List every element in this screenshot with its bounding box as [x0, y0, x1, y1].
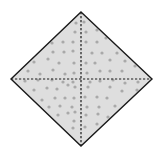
- texture-dot: [123, 59, 126, 62]
- texture-dot: [84, 30, 87, 33]
- texture-dot: [63, 72, 66, 75]
- texture-dot: [84, 61, 87, 64]
- texture-dot: [86, 85, 89, 88]
- texture-dot: [105, 96, 108, 99]
- texture-dot: [71, 40, 74, 43]
- texture-dot: [40, 98, 43, 101]
- texture-dot: [100, 51, 103, 54]
- texture-dot: [95, 95, 98, 98]
- texture-dot: [23, 79, 26, 82]
- texture-dot: [61, 40, 64, 43]
- texture-dot: [74, 21, 77, 24]
- texture-dot: [45, 86, 48, 89]
- texture-dot: [73, 110, 76, 113]
- texture-dot: [55, 87, 58, 90]
- texture-dot: [93, 61, 96, 64]
- texture-dot: [96, 112, 99, 115]
- texture-dot: [73, 30, 76, 33]
- texture-dot: [62, 50, 65, 53]
- texture-dot: [71, 80, 74, 83]
- texture-dot: [115, 51, 118, 54]
- texture-dot: [82, 20, 85, 23]
- texture-dot: [83, 125, 86, 128]
- texture-dot: [108, 69, 111, 72]
- texture-dot: [73, 85, 76, 88]
- texture-dot: [53, 96, 56, 99]
- texture-dot: [85, 105, 88, 108]
- texture-dot: [97, 105, 100, 108]
- texture-dot: [61, 80, 64, 83]
- texture-dot: [46, 57, 49, 60]
- texture-dot: [72, 61, 75, 64]
- texture-dot: [113, 104, 116, 107]
- texture-dot: [83, 95, 86, 98]
- texture-dot: [66, 111, 69, 114]
- texture-dot: [135, 88, 138, 91]
- texture-dot: [136, 80, 139, 83]
- texture-dot: [71, 126, 74, 129]
- texture-dot: [84, 40, 87, 43]
- texture-dot: [95, 40, 98, 43]
- diamond-figure: [0, 0, 158, 157]
- texture-dot: [71, 49, 74, 52]
- texture-dot: [47, 105, 50, 108]
- texture-dot: [72, 119, 75, 122]
- texture-dot: [120, 69, 123, 72]
- texture-dot: [85, 71, 88, 74]
- texture-dot: [56, 113, 59, 116]
- texture-dot: [123, 81, 126, 84]
- texture-dot: [50, 41, 53, 44]
- texture-dot: [32, 88, 35, 91]
- texture-dot: [108, 85, 111, 88]
- texture-dot: [98, 69, 101, 72]
- texture-dot: [51, 68, 54, 71]
- texture-dot: [88, 80, 91, 83]
- texture-dot: [66, 83, 69, 86]
- texture-dot: [95, 122, 98, 125]
- texture-dot: [72, 71, 75, 74]
- texture-dot: [63, 96, 66, 99]
- texture-dot: [51, 50, 54, 53]
- texture-dot: [26, 69, 29, 72]
- texture-dot: [70, 105, 73, 108]
- texture-dot: [32, 60, 35, 63]
- texture-dot: [90, 51, 93, 54]
- texture-dot: [58, 104, 61, 107]
- texture-dot: [120, 89, 123, 92]
- texture-dot: [108, 58, 111, 61]
- texture-dot: [84, 113, 87, 116]
- texture-dot: [72, 96, 75, 99]
- texture-dot: [106, 115, 109, 118]
- texture-dot: [38, 72, 41, 75]
- texture-dot: [98, 79, 101, 82]
- texture-dot: [57, 61, 60, 64]
